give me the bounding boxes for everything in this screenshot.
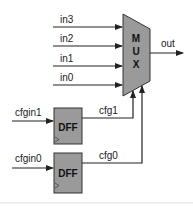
- mux-dff-diagram: in3 in2 in1 in0 M U X out cfgin1 DFF cfg…: [0, 0, 193, 206]
- input-label-in0: in0: [60, 72, 74, 83]
- cfgin0-label: cfgin0: [15, 153, 42, 164]
- mux-letter-x: X: [133, 59, 140, 70]
- input-label-in3: in3: [60, 14, 74, 25]
- mux-letter-m: M: [132, 33, 140, 44]
- cfg1-label: cfg1: [99, 105, 118, 116]
- cfg0-label: cfg0: [99, 150, 118, 161]
- input-label-in1: in1: [60, 53, 74, 64]
- dff0-label: DFF: [58, 168, 77, 179]
- cfgin1-label: cfgin1: [15, 107, 42, 118]
- dff1-label: DFF: [58, 122, 77, 133]
- mux-letter-u: U: [132, 46, 139, 57]
- output-label-out: out: [161, 38, 175, 49]
- input-label-in2: in2: [60, 33, 74, 44]
